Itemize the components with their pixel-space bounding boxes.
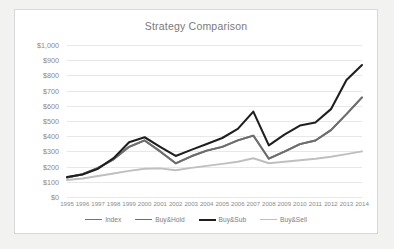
series-lines xyxy=(67,45,362,197)
y-axis-tick-label: $200 xyxy=(43,162,59,171)
x-axis-tick-label: 2006 xyxy=(231,200,245,207)
x-axis-tick-label: 2008 xyxy=(262,200,276,207)
y-axis-tick-label: $300 xyxy=(43,147,59,156)
x-axis-tick-label: 2011 xyxy=(309,200,322,207)
chart-title: Strategy Comparison xyxy=(15,20,377,32)
y-axis-tick-label: $1,000 xyxy=(37,41,59,50)
legend-swatch-line-icon xyxy=(199,219,216,221)
y-axis-tick-label: $500 xyxy=(43,117,59,126)
legend-label: Index xyxy=(105,216,121,223)
legend-label: Buy&Hold xyxy=(155,216,184,223)
x-axis-tick-label: 1999 xyxy=(122,200,136,207)
plot-area xyxy=(67,45,362,197)
legend-swatch-line-icon xyxy=(85,219,102,220)
legend-item-index[interactable]: Index xyxy=(85,216,121,223)
chart-legend: IndexBuy&HoldBuy&SubBuy&Sell xyxy=(15,216,377,223)
x-axis-tick-label: 2013 xyxy=(340,200,354,207)
legend-item-buy-sell[interactable]: Buy&Sell xyxy=(260,216,307,223)
x-axis-tick-label: 2005 xyxy=(215,200,229,207)
x-axis-tick-label: 2010 xyxy=(293,200,307,207)
y-axis-tick-label: $0 xyxy=(51,193,59,202)
legend-swatch-line-icon xyxy=(135,219,152,220)
x-axis-tick-label: 1998 xyxy=(107,200,121,207)
y-axis-tick-label: $800 xyxy=(43,71,59,80)
y-axis-labels: $1,000$900$800$700$600$500$400$300$200$1… xyxy=(15,45,63,197)
y-axis-tick-label: $700 xyxy=(43,86,59,95)
x-axis-tick-label: 2014 xyxy=(355,200,369,207)
legend-label: Buy&Sub xyxy=(219,216,247,223)
x-axis-tick-label: 2007 xyxy=(247,200,261,207)
y-axis-tick-label: $900 xyxy=(43,56,59,65)
x-axis-tick-label: 2009 xyxy=(278,200,292,207)
x-axis-tick-label: 2012 xyxy=(324,200,338,207)
y-axis-tick-label: $600 xyxy=(43,101,59,110)
series-line-buy-sell xyxy=(67,151,362,180)
x-axis-tick-label: 2000 xyxy=(138,200,152,207)
legend-swatch-line-icon xyxy=(260,219,277,220)
x-axis-tick-label: 2001 xyxy=(153,200,167,207)
gridline xyxy=(67,197,362,198)
x-axis-tick-label: 1997 xyxy=(91,200,105,207)
x-axis-labels: 1995199619971998199920002001200220032004… xyxy=(67,199,362,211)
x-axis-tick-label: 2002 xyxy=(169,200,183,207)
screenshot-canvas: Strategy Comparison $1,000$900$800$700$6… xyxy=(0,0,394,249)
series-line-buy-sub xyxy=(67,65,362,177)
chart-container: Strategy Comparison $1,000$900$800$700$6… xyxy=(14,9,378,234)
x-axis-tick-label: 1995 xyxy=(60,200,74,207)
legend-item-buy-hold[interactable]: Buy&Hold xyxy=(135,216,184,223)
x-axis-tick-label: 2004 xyxy=(200,200,214,207)
legend-label: Buy&Sell xyxy=(280,216,307,223)
x-axis-tick-label: 1996 xyxy=(76,200,90,207)
y-axis-tick-label: $400 xyxy=(43,132,59,141)
y-axis-tick-label: $100 xyxy=(43,177,59,186)
legend-item-buy-sub[interactable]: Buy&Sub xyxy=(199,216,247,223)
x-axis-tick-label: 2003 xyxy=(184,200,198,207)
